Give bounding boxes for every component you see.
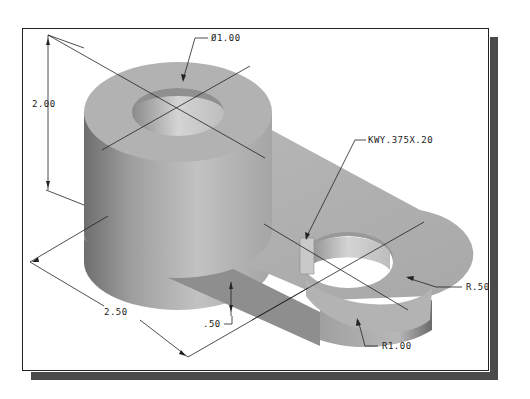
label-center-distance: 2.50 <box>104 307 128 317</box>
label-plate-thickness: .50 <box>203 319 221 329</box>
drawing-canvas: Ø1.00 2.00 KWY.375X.20 2.50 .50 R.50 R1.… <box>0 0 530 399</box>
keyway-slot <box>300 238 314 274</box>
boss-cylinder <box>84 62 272 278</box>
part-illustration: Ø1.00 2.00 KWY.375X.20 2.50 .50 R.50 R1.… <box>0 0 530 399</box>
label-keyway: KWY.375X.20 <box>368 135 433 145</box>
label-boss-height: 2.00 <box>32 99 56 109</box>
label-end-radius: R1.00 <box>382 341 412 351</box>
label-hole-radius: R.50 <box>466 282 490 292</box>
label-boss-diameter: Ø1.00 <box>211 33 241 43</box>
